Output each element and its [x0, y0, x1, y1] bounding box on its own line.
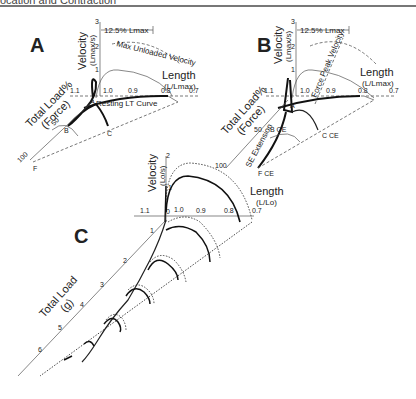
panel-b-load-tick-50: 50 [254, 126, 262, 133]
panel-a-velocity-label: Velocity [76, 32, 88, 70]
panel-b-ltick-0.8: 0.8 [358, 87, 368, 94]
panel-b-point-a: A [290, 102, 295, 109]
panel-a-velocity-unit: (Lmax/s) [88, 35, 97, 66]
panel-b-point-f: F CE [258, 170, 274, 177]
muscle-velocity-length-load-diagram: A 3 2 1 Velocity (Lmax/s) 12.5% Lmax Max… [0, 0, 416, 399]
panel-c-velocity-label: Velocity [146, 154, 158, 192]
panel-c-ltick-0.8: 0.8 [224, 207, 234, 214]
panel-c-solid-curve-2 [166, 226, 210, 262]
panel-c-load-tick-3: 3 [100, 281, 104, 288]
panel-c: C 2 1 Velocity (Lo/s) 1.1 0 1.0 0.9 0.8 … [18, 152, 284, 376]
panel-a-load-tick-100: 100 [16, 150, 29, 163]
panel-c-ltick-1.1: 1.1 [140, 207, 150, 214]
panel-c-solid-curve-6 [84, 341, 94, 346]
panel-a-point-a: A [90, 98, 95, 105]
panel-b-load-tick-100: 100 [215, 162, 227, 169]
panel-c-dotted-curve-2 [168, 217, 220, 258]
panel-b-ltick-0.9: 0.9 [326, 87, 336, 94]
panel-a-length-unit: (L/Lmax) [164, 82, 196, 91]
panel-a-point-c: C [107, 130, 112, 137]
panel-c-dashed-axis [40, 222, 252, 376]
panel-b-c-arc [292, 110, 318, 130]
panel-c-dotted-curve-5 [106, 314, 126, 330]
panel-b-length-unit: (L/Lmax) [362, 79, 394, 88]
panel-b-ltick-0.7: 0.7 [389, 87, 399, 94]
panel-a-point-b: B [64, 127, 69, 134]
panel-c-load-tick-1: 1 [150, 227, 154, 234]
panel-c-length-label: Length [250, 185, 284, 197]
panel-a-ltick-0.9: 0.9 [128, 87, 138, 94]
panel-a-ltick-1.0: 1.0 [103, 87, 113, 94]
panel-a-vtick-1: 1 [95, 66, 99, 73]
panel-b: B 3 2 1 Velocity (Lmax/s) 12.5% Lmax For… [215, 18, 399, 177]
panel-b-point-c: C CE [322, 132, 339, 139]
panel-c-ltick-1.0: 1.0 [174, 206, 184, 213]
panel-b-vtick-3: 3 [291, 18, 295, 25]
panel-a-max-unloaded-label: Max Unloaded Velocity [116, 39, 197, 67]
panel-c-vtick-2: 2 [166, 152, 170, 159]
panel-b-letter: B [257, 34, 271, 56]
panel-c-velocity-unit: (Lo/s) [158, 165, 167, 186]
panel-b-velocity-unit: (Lmax/s) [284, 31, 293, 62]
panel-c-dotted-curve-3 [150, 255, 186, 282]
panel-c-length-unit: (L/Lo) [256, 198, 277, 207]
panel-c-solid-curve-1 [166, 176, 240, 222]
panel-c-load-tick-4: 4 [80, 301, 84, 308]
panel-b-max-curve [310, 42, 376, 64]
panel-c-load-tick-2: 2 [123, 257, 127, 264]
panel-b-velocity-label: Velocity [272, 26, 284, 64]
panel-a: A 3 2 1 Velocity (Lmax/s) 12.5% Lmax Max… [16, 18, 199, 172]
panel-a-resting-label: Resting LT Curve [96, 99, 158, 108]
panel-c-trajectory [82, 220, 166, 362]
panel-c-letter: C [74, 225, 88, 247]
panel-b-length-label: Length [360, 66, 394, 78]
panel-a-scale-bar: 12.5% Lmax [104, 26, 148, 35]
panel-b-vtick-1: 1 [291, 66, 295, 73]
panel-a-point-f: F [33, 165, 37, 172]
panel-c-ltick-0.9: 0.9 [196, 207, 206, 214]
panel-c-load-tick-5: 5 [58, 324, 62, 331]
panel-b-ltick-1.0: 1.0 [300, 87, 310, 94]
panel-c-ltick-0.7: 0.7 [252, 207, 262, 214]
panel-c-solid-curve-3 [148, 260, 178, 280]
panel-a-length-label: Length [162, 69, 196, 81]
panel-c-load-label: Total Load [37, 274, 80, 320]
panel-a-letter: A [30, 34, 44, 56]
panel-c-load-tick-6: 6 [38, 346, 42, 353]
panel-b-point-b: B CE [270, 126, 287, 133]
panel-c-solid-curve-5 [104, 318, 121, 332]
panel-a-vtick-3: 3 [95, 18, 99, 25]
